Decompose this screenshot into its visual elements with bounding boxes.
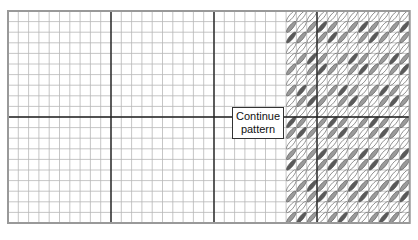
stitch [388, 63, 400, 76]
stitch [337, 179, 349, 192]
stitch [326, 94, 338, 107]
stitch [326, 41, 338, 54]
stitch [306, 137, 318, 150]
stitch [357, 158, 369, 171]
stitch [316, 52, 328, 65]
stitch [347, 158, 359, 171]
stitch [337, 200, 349, 213]
stitch [388, 200, 400, 213]
stitch [388, 94, 400, 107]
stitch [378, 158, 390, 171]
stitch [347, 179, 359, 192]
stitch [296, 94, 308, 107]
stitch [357, 94, 369, 107]
stitch [347, 169, 359, 182]
stitch [357, 179, 369, 192]
stitch [347, 41, 359, 54]
stitch [285, 94, 297, 107]
stitch [368, 169, 380, 182]
stitch [285, 63, 297, 76]
stitch [326, 190, 338, 203]
stitch [296, 200, 308, 213]
stitch [337, 31, 349, 44]
stitch [326, 126, 338, 139]
stitch [296, 137, 308, 150]
stitch [296, 169, 308, 182]
stitch [285, 200, 297, 213]
stitch [347, 73, 359, 86]
stitch [388, 158, 400, 171]
stitch [337, 126, 349, 139]
stitch [316, 41, 328, 54]
stitch [306, 169, 318, 182]
stitch [296, 147, 308, 160]
stitch [337, 73, 349, 86]
stitch [357, 63, 369, 76]
stitch [388, 190, 400, 203]
stitch [326, 158, 338, 171]
stitch [306, 200, 318, 213]
stitch [316, 200, 328, 213]
label-line-2: pattern [233, 123, 283, 136]
stitch [368, 147, 380, 160]
stitch [337, 137, 349, 150]
stitch [337, 84, 349, 97]
stitch [285, 147, 297, 160]
stitch [337, 52, 349, 65]
stitch [296, 126, 308, 139]
stitch [337, 94, 349, 107]
stitch [378, 73, 390, 86]
stitch [357, 147, 369, 160]
stitch [357, 20, 369, 33]
stitch [316, 158, 328, 171]
stitch [368, 31, 380, 44]
stitch [296, 41, 308, 54]
stitch [296, 84, 308, 97]
stitch [306, 158, 318, 171]
stitch [316, 190, 328, 203]
stitch [285, 31, 297, 44]
stitch [388, 179, 400, 192]
stitch [357, 31, 369, 44]
stitch [388, 73, 400, 86]
stitch [388, 147, 400, 160]
stitch [296, 179, 308, 192]
stitch [357, 126, 369, 139]
stitch [316, 179, 328, 192]
continue-pattern-label: Continue pattern [232, 107, 284, 139]
stitch [326, 137, 338, 150]
stitch [378, 84, 390, 97]
stitch [306, 179, 318, 192]
stitch [296, 20, 308, 33]
stitch [368, 158, 380, 171]
stitch [347, 94, 359, 107]
stitch [378, 169, 390, 182]
stitch [316, 169, 328, 182]
stitch [337, 190, 349, 203]
stitch [368, 73, 380, 86]
stitch [388, 20, 400, 33]
stitch [285, 52, 297, 65]
stitch [296, 73, 308, 86]
stitch [285, 137, 297, 150]
stitch [388, 31, 400, 44]
stitch [347, 63, 359, 76]
stitch [285, 73, 297, 86]
stitch [306, 20, 318, 33]
stitch [378, 63, 390, 76]
stitch [388, 52, 400, 65]
stitch [378, 94, 390, 107]
stitch [326, 73, 338, 86]
stitch [296, 158, 308, 171]
stitch [306, 190, 318, 203]
stitch [368, 84, 380, 97]
stitch [357, 200, 369, 213]
stitch [347, 84, 359, 97]
stitch [378, 20, 390, 33]
stitch [285, 158, 297, 171]
stitch [357, 73, 369, 86]
label-line-1: Continue [233, 110, 283, 123]
stitch [368, 137, 380, 150]
stitch [337, 41, 349, 54]
stitch [368, 52, 380, 65]
